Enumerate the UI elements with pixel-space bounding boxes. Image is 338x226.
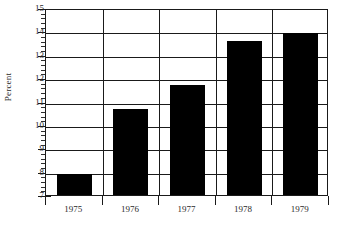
- y-tick-label-12: 12: [18, 74, 44, 83]
- x-tick-1: [102, 196, 103, 205]
- y-tick-label-14: 14: [18, 27, 44, 36]
- x-tick-5: [328, 196, 329, 205]
- bar-1977: [170, 85, 205, 195]
- x-tick-3: [215, 196, 216, 205]
- x-tick-0: [45, 196, 46, 205]
- y-tick-label-11: 11: [18, 98, 44, 107]
- gridline-x-1: [103, 10, 104, 195]
- y-tick-label-7: 7: [18, 191, 44, 200]
- x-tick-label-1978: 1978: [215, 205, 272, 214]
- y-tick-label-15: 15: [18, 4, 44, 13]
- x-tick-2: [158, 196, 159, 205]
- plot-area: [45, 9, 328, 196]
- y-tick-label-13: 13: [18, 51, 44, 60]
- bar-1979: [283, 33, 318, 195]
- x-tick-label-1975: 1975: [45, 205, 102, 214]
- y-tick-label-10: 10: [18, 121, 44, 130]
- x-tick-label-1977: 1977: [158, 205, 215, 214]
- x-tick-label-1976: 1976: [101, 205, 158, 214]
- x-tick-label-1979: 1979: [271, 205, 328, 214]
- bar-1976: [113, 109, 148, 195]
- bar-1978: [227, 41, 262, 195]
- y-axis-title: Percent: [3, 57, 13, 117]
- x-tick-4: [271, 196, 272, 205]
- bar-chart: Percent 789101112131415 1975197619771978…: [0, 0, 338, 226]
- y-tick-label-9: 9: [18, 144, 44, 153]
- gridline-x-3: [216, 10, 217, 195]
- y-tick-label-8: 8: [18, 168, 44, 177]
- gridline-x-4: [272, 10, 273, 195]
- bar-1975: [57, 174, 92, 195]
- gridline-x-2: [159, 10, 160, 195]
